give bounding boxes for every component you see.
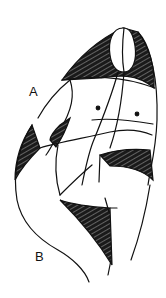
shade-upper bbox=[62, 28, 154, 88]
label-a: A bbox=[29, 84, 38, 99]
line-drawing bbox=[0, 0, 166, 298]
shade-right bbox=[100, 149, 153, 180]
shade-lower bbox=[60, 200, 112, 265]
label-b: B bbox=[35, 249, 44, 264]
